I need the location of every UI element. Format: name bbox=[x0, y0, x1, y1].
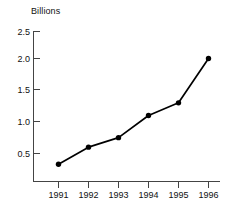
x-tick-label-1995: 1995 bbox=[168, 190, 188, 200]
data-point bbox=[116, 135, 121, 140]
data-point bbox=[206, 56, 211, 61]
x-tick-label-1994: 1994 bbox=[138, 190, 158, 200]
x-tick-group bbox=[59, 182, 209, 188]
y-tick-label-1-0: 1.0 bbox=[17, 117, 30, 127]
y-tick-label-2-0: 2.0 bbox=[17, 54, 30, 64]
plot-area: 2.5 2.0 1.5 1.0 0.5 1991 1992 1993 1994 … bbox=[0, 0, 229, 208]
x-axis: 1991 1992 1993 1994 1995 1996 bbox=[33, 182, 220, 201]
y-tick-group bbox=[34, 32, 40, 154]
data-point bbox=[146, 113, 151, 118]
x-tick-label-1993: 1993 bbox=[108, 190, 128, 200]
data-series-billions bbox=[56, 56, 211, 167]
x-tick-label-1992: 1992 bbox=[78, 190, 98, 200]
data-point bbox=[176, 100, 181, 105]
series-line bbox=[59, 59, 209, 165]
x-tick-label-1996: 1996 bbox=[198, 190, 218, 200]
y-axis: 2.5 2.0 1.5 1.0 0.5 bbox=[17, 27, 39, 182]
data-point bbox=[86, 144, 91, 149]
y-tick-label-1-5: 1.5 bbox=[17, 85, 30, 95]
y-tick-label-2-5: 2.5 bbox=[17, 27, 30, 37]
y-tick-label-0-5: 0.5 bbox=[17, 149, 30, 159]
data-point bbox=[56, 162, 61, 167]
series-marker-group bbox=[56, 56, 211, 167]
x-tick-label-1991: 1991 bbox=[48, 190, 68, 200]
line-chart: Billions 2.5 2.0 1.5 1.0 0.5 bbox=[0, 0, 229, 208]
